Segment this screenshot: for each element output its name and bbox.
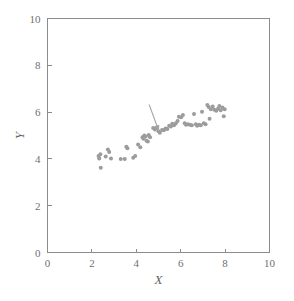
x-tick-label: 6 — [178, 257, 184, 269]
y-tick-label: 6 — [35, 106, 41, 118]
data-point — [176, 119, 180, 123]
y-tick-label: 8 — [35, 59, 41, 71]
data-point — [123, 157, 127, 161]
y-tick-label: 0 — [35, 247, 41, 259]
data-point — [223, 107, 227, 111]
data-point — [138, 145, 142, 149]
axis-tick-labels: 02468100246810 — [30, 13, 276, 269]
data-point — [146, 140, 150, 144]
data-points — [97, 103, 227, 170]
x-tick-label: 2 — [89, 257, 95, 269]
plot-frame — [48, 19, 270, 253]
data-point — [190, 123, 194, 127]
data-point — [98, 152, 102, 156]
data-point — [97, 156, 101, 160]
data-point — [208, 117, 212, 121]
data-point — [192, 112, 196, 116]
x-tick-label: 4 — [134, 257, 140, 269]
data-point — [109, 156, 113, 160]
data-point — [104, 155, 108, 159]
data-point — [200, 110, 204, 114]
x-tick-label: 8 — [222, 257, 228, 269]
x-tick-label: 0 — [45, 257, 51, 269]
axes-frame — [48, 19, 270, 253]
data-point — [204, 122, 208, 126]
data-point — [99, 166, 103, 170]
y-tick-label: 4 — [35, 153, 41, 165]
axis-ticks — [48, 19, 270, 253]
plot-canvas: 02468100246810 X Y — [0, 0, 294, 301]
data-point — [181, 113, 185, 117]
data-point — [119, 157, 123, 161]
data-point — [125, 146, 129, 150]
y-tick-label: 2 — [35, 200, 41, 212]
scatter-plot-figure: 02468100246810 X Y — [0, 0, 294, 301]
y-tick-label: 10 — [30, 13, 42, 25]
data-point — [222, 114, 226, 118]
data-point — [107, 150, 111, 154]
x-axis-label: X — [154, 272, 164, 287]
x-tick-label: 10 — [264, 257, 276, 269]
y-axis-label: Y — [12, 130, 27, 139]
data-point — [148, 135, 152, 139]
data-point — [133, 154, 137, 158]
